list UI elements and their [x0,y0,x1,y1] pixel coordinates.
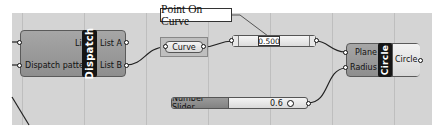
number-slider-output-grip[interactable] [306,101,311,106]
dispatch-lista-output-grip[interactable] [124,40,129,45]
poc-output-grip[interactable] [314,38,319,43]
circle-component[interactable]: Plane Radius Circle Circle [346,43,420,77]
dispatch-listb-output-grip[interactable] [124,63,129,68]
circle-radius-input-grip[interactable] [343,65,348,70]
curve-parameter[interactable]: Curve [165,41,203,53]
dispatch-nickname: Dispatch [82,30,97,77]
circle-output-circle: Circle [395,55,417,64]
dispatch-list-input-grip[interactable] [17,40,22,45]
slider-knob-icon[interactable] [287,100,294,107]
circle-input-radius: Radius [350,63,377,72]
dispatch-component[interactable]: List Dispatch pattern Dispatch List A Li… [20,30,126,77]
number-slider-value: 0.6 [270,99,283,108]
curve-output-grip[interactable] [201,44,206,49]
circle-plane-input-grip[interactable] [343,50,348,55]
number-slider-value-area[interactable]: 0.6 [270,98,294,108]
curve-input-grip[interactable] [163,44,168,49]
number-slider[interactable]: Number Slider 0.6 [171,97,308,109]
point-on-curve-callout: Point On Curve [160,8,232,22]
poc-value[interactable]: 0.500 [258,36,280,46]
dispatch-output-listb: List B [100,61,122,70]
number-slider-label: Number Slider [172,98,229,108]
circle-input-plane: Plane [355,48,377,57]
point-on-curve-slider[interactable]: 0.500 [232,35,316,47]
circle-nickname: Circle [378,43,392,77]
circle-output-section: Circle [392,44,420,76]
poc-input-grip[interactable] [229,38,234,43]
dispatch-pattern-input-grip[interactable] [17,63,22,68]
circle-output-grip[interactable] [418,58,423,63]
dispatch-output-lista: List A [100,39,122,48]
